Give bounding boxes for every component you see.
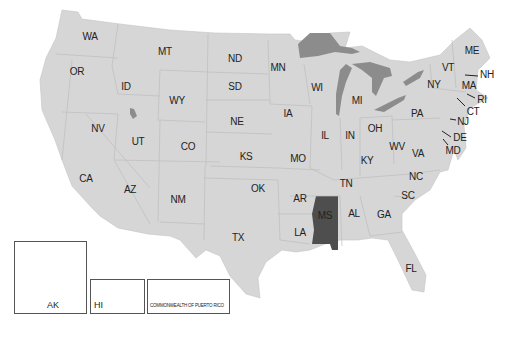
- alaska-label: AK: [47, 300, 59, 310]
- state-label-in[interactable]: IN: [345, 130, 354, 141]
- state-label-ky[interactable]: KY: [361, 155, 374, 166]
- state-label-sc[interactable]: SC: [401, 190, 414, 201]
- state-label-ca[interactable]: CA: [79, 173, 92, 184]
- state-label-az[interactable]: AZ: [124, 184, 136, 195]
- state-label-wy[interactable]: WY: [169, 95, 185, 106]
- state-label-ok[interactable]: OK: [251, 183, 265, 194]
- state-label-mi[interactable]: MI: [352, 95, 363, 106]
- state-label-nm[interactable]: NM: [171, 194, 186, 205]
- state-label-fl[interactable]: FL: [405, 263, 416, 274]
- state-label-ne[interactable]: NE: [230, 116, 243, 127]
- state-label-nv[interactable]: NV: [91, 123, 104, 134]
- state-label-nd[interactable]: ND: [228, 53, 242, 64]
- state-label-ny[interactable]: NY: [427, 79, 440, 90]
- state-label-ar[interactable]: AR: [293, 193, 306, 204]
- state-label-me[interactable]: ME: [465, 45, 479, 56]
- state-label-de[interactable]: DE: [453, 132, 466, 143]
- state-label-va[interactable]: VA: [412, 148, 424, 159]
- state-ms-highlight[interactable]: [312, 196, 338, 250]
- state-label-wi[interactable]: WI: [311, 82, 323, 93]
- state-label-nj[interactable]: NJ: [457, 116, 469, 127]
- state-label-la[interactable]: LA: [294, 227, 306, 238]
- us-map: AK HI COMMONWEALTH OF PUERTO RICO WAORMT…: [0, 0, 512, 339]
- state-label-wa[interactable]: WA: [82, 31, 97, 42]
- state-label-co[interactable]: CO: [181, 141, 195, 152]
- state-label-il[interactable]: IL: [321, 130, 329, 141]
- state-label-or[interactable]: OR: [70, 66, 84, 77]
- state-label-al[interactable]: AL: [348, 208, 360, 219]
- state-label-pa[interactable]: PA: [411, 108, 423, 119]
- state-label-ma[interactable]: MA: [462, 80, 476, 91]
- state-label-mt[interactable]: MT: [158, 46, 172, 57]
- state-label-md[interactable]: MD: [446, 145, 461, 156]
- state-label-ia[interactable]: IA: [284, 108, 293, 119]
- puerto-rico-label: COMMONWEALTH OF PUERTO RICO: [150, 303, 224, 308]
- state-label-vt[interactable]: VT: [442, 62, 454, 73]
- state-label-nh[interactable]: NH: [480, 69, 494, 80]
- hawaii-label: HI: [94, 300, 103, 310]
- state-label-ut[interactable]: UT: [132, 136, 145, 147]
- state-label-wv[interactable]: WV: [389, 141, 405, 152]
- state-label-sd[interactable]: SD: [228, 81, 241, 92]
- state-label-ri[interactable]: RI: [477, 94, 486, 105]
- puerto-rico-inset: [147, 279, 230, 314]
- state-label-oh[interactable]: OH: [368, 123, 382, 134]
- state-label-tn[interactable]: TN: [340, 178, 353, 189]
- state-label-ga[interactable]: GA: [377, 209, 391, 220]
- state-label-ks[interactable]: KS: [240, 151, 253, 162]
- state-label-nc[interactable]: NC: [409, 171, 423, 182]
- state-label-id[interactable]: ID: [121, 81, 130, 92]
- state-label-mn[interactable]: MN: [271, 62, 286, 73]
- state-label-tx[interactable]: TX: [232, 232, 244, 243]
- state-label-ms[interactable]: MS: [318, 210, 332, 221]
- state-label-mo[interactable]: MO: [290, 153, 306, 164]
